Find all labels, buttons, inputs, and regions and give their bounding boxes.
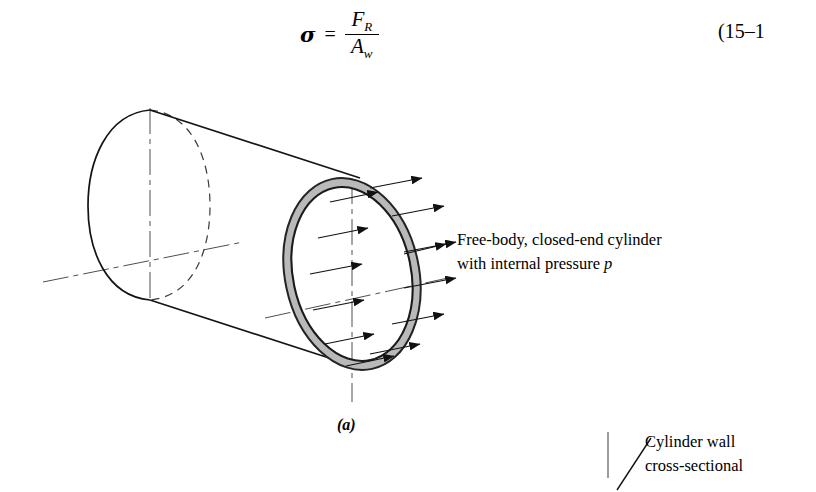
equals-sign: = xyxy=(324,23,335,46)
cylinder-wall-callout-line2: cross-sectional xyxy=(645,454,743,478)
pressure-symbol: p xyxy=(604,254,612,273)
free-body-callout: Free-body, closed-end cylinder with inte… xyxy=(457,228,662,276)
fraction-denominator: Aw xyxy=(346,35,378,61)
sigma-symbol: σ xyxy=(300,22,315,47)
pressure-arrow xyxy=(318,228,368,238)
cylinder-wall-callout: Cylinder wall cross-sectional xyxy=(645,430,743,478)
left-end-centerlines xyxy=(43,108,243,300)
equation-number: (15–1 xyxy=(718,20,765,43)
stress-equation: σ = FR Aw xyxy=(300,8,379,61)
cylinder-free-body-figure xyxy=(0,92,816,422)
pressure-arrow xyxy=(370,178,422,188)
pressure-arrow xyxy=(310,264,362,274)
stress-fraction: FR Aw xyxy=(345,8,379,61)
pressure-arrow xyxy=(392,206,444,216)
cylinder-wall-callout-line1: Cylinder wall xyxy=(645,430,743,454)
cylinder-top-edge xyxy=(150,110,360,178)
pressure-arrow xyxy=(325,334,374,344)
fraction-numerator: FR xyxy=(346,8,377,34)
left-end-hidden-arc xyxy=(150,110,210,300)
figure-part-label: (a) xyxy=(337,416,356,434)
free-body-callout-line1: Free-body, closed-end cylinder xyxy=(457,228,662,252)
free-body-callout-line2: with internal pressure p xyxy=(457,252,662,276)
left-axis-centerline xyxy=(43,242,243,282)
